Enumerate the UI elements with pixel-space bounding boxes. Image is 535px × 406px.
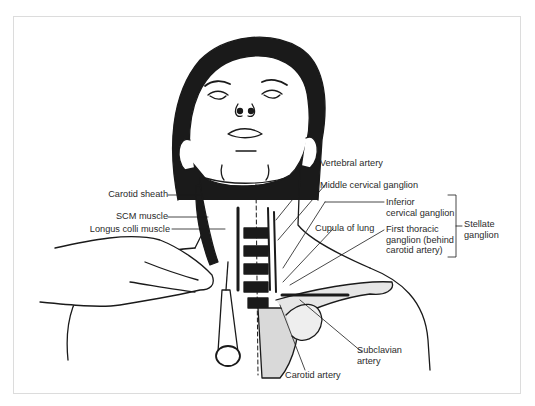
hand: [40, 237, 213, 307]
label-inferior-cervical-ganglion: Inferior cervical ganglion: [386, 197, 454, 218]
label-subclavian-artery: Subclavian artery: [357, 345, 402, 366]
label-cupula-of-lung: Cupula of lung: [315, 223, 374, 234]
syringe-plunger: [216, 346, 240, 366]
label-carotid-artery: Carotid artery: [285, 370, 341, 381]
label-middle-cervical-ganglion: Middle cervical ganglion: [320, 180, 418, 191]
label-stellate-ganglion: Stellate ganglion: [464, 219, 499, 240]
label-subclavian-line2: artery: [357, 356, 402, 367]
label-first-thoracic-line2: ganglion (behind: [386, 235, 454, 246]
label-first-thoracic-ganglion: First thoracic ganglion (behind carotid …: [386, 224, 454, 256]
label-stellate-line1: Stellate: [464, 219, 499, 230]
label-first-thoracic-line1: First thoracic: [386, 224, 454, 235]
label-first-thoracic-line3: carotid artery): [386, 245, 454, 256]
label-longus-colli-muscle: Longus colli muscle: [70, 224, 170, 235]
label-carotid-sheath: Carotid sheath: [84, 189, 168, 200]
label-scm-muscle: SCM muscle: [84, 211, 168, 222]
anatomical-illustration: [0, 0, 535, 406]
label-subclavian-line1: Subclavian: [357, 345, 402, 356]
label-stellate-line2: ganglion: [464, 230, 499, 241]
syringe: [218, 290, 238, 352]
label-inferior-line1: Inferior: [386, 197, 454, 208]
label-inferior-line2: cervical ganglion: [386, 208, 454, 219]
label-vertebral-artery: Vertebral artery: [320, 158, 383, 169]
